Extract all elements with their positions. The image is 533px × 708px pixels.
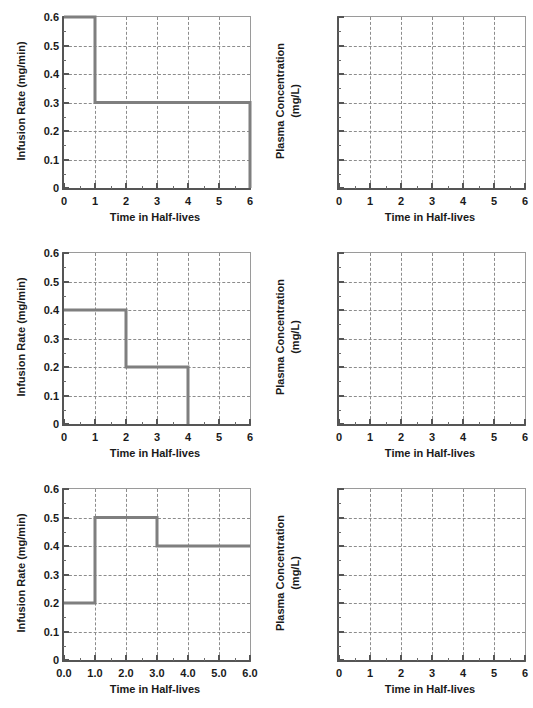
- panel-infusion-2: 012345600.10.20.30.40.50.6 Infusion Rate…: [0, 236, 266, 472]
- y-tick-major: [338, 545, 344, 547]
- y-tick-label: 0: [28, 655, 59, 666]
- y-tick-label: 0.4: [28, 541, 59, 552]
- x-tick-major: [369, 419, 371, 425]
- x-tick-label: 6: [522, 196, 528, 207]
- x-tick-label: 6: [247, 196, 253, 207]
- panel-infusion-1: 012345600.10.20.30.40.50.6 Infusion Rate…: [0, 0, 266, 236]
- y-tick-minor: [338, 324, 341, 325]
- step-line-path: [64, 17, 250, 188]
- x-tick-label: 3: [429, 196, 435, 207]
- y-tick-minor: [338, 646, 341, 647]
- plot-area-plasma-2: 0123456: [337, 252, 526, 426]
- y-axis-title-plasma-line2: (mg/L): [288, 8, 303, 194]
- y-axis-title-infusion-3: Infusion Rate (mg/min): [14, 480, 28, 666]
- gridline-vertical: [432, 489, 433, 660]
- x-tick-label: 1.0: [87, 668, 102, 679]
- x-tick-label: 5.0: [211, 668, 226, 679]
- x-tick-major: [431, 183, 433, 189]
- gridline-vertical: [370, 489, 371, 660]
- x-tick-label: 1: [367, 668, 373, 679]
- gridline-vertical: [401, 253, 402, 424]
- gridline-vertical: [432, 253, 433, 424]
- x-tick-label: 2: [398, 196, 404, 207]
- y-tick-label: 0: [28, 183, 59, 194]
- y-axis-title-plasma-3: Plasma Concentration (mg/L): [273, 480, 303, 666]
- x-tick-label: 6: [247, 432, 253, 443]
- gridline-horizontal: [339, 632, 525, 633]
- step-line-path: [64, 310, 188, 424]
- x-tick-label: 4: [460, 196, 466, 207]
- gridline-horizontal: [339, 367, 525, 368]
- x-tick-major: [524, 183, 526, 189]
- y-tick-label: 0.2: [28, 126, 59, 137]
- x-tick-minor: [355, 422, 356, 425]
- y-tick-minor: [338, 117, 341, 118]
- gridline-horizontal: [339, 160, 525, 161]
- panel-plasma-2: 0123456 Plasma Concentration (mg/L) Time…: [267, 236, 533, 472]
- x-tick-minor: [479, 186, 480, 189]
- y-tick-minor: [338, 589, 341, 590]
- x-axis-title-plasma-1: Time in Half-lives: [337, 211, 523, 223]
- x-tick-label: 1: [367, 432, 373, 443]
- x-tick-minor: [386, 186, 387, 189]
- x-tick-label: 3: [154, 196, 160, 207]
- y-tick-minor: [338, 353, 341, 354]
- y-tick-minor: [338, 617, 341, 618]
- step-line-series: [64, 253, 250, 424]
- gridline-horizontal: [339, 282, 525, 283]
- x-tick-minor: [510, 186, 511, 189]
- y-tick-label: 0.1: [28, 390, 59, 401]
- y-tick-major: [338, 130, 344, 132]
- gridline-vertical: [463, 489, 464, 660]
- y-tick-minor: [338, 296, 341, 297]
- y-tick-major: [338, 366, 344, 368]
- y-tick-minor: [338, 88, 341, 89]
- x-tick-minor: [479, 422, 480, 425]
- y-tick-major: [338, 309, 344, 311]
- x-tick-major: [524, 655, 526, 661]
- y-tick-label: 0.3: [28, 333, 59, 344]
- x-tick-label: 6: [522, 432, 528, 443]
- y-tick-label: 0.6: [28, 12, 59, 23]
- x-tick-label: 3: [429, 432, 435, 443]
- gridline-vertical: [494, 489, 495, 660]
- x-axis-title-infusion-3: Time in Half-lives: [62, 683, 248, 695]
- x-tick-label: 3: [429, 668, 435, 679]
- y-axis-title-plasma-line1: Plasma Concentration: [274, 279, 286, 395]
- y-tick-major: [338, 159, 344, 161]
- y-axis-title-plasma-2: Plasma Concentration (mg/L): [273, 244, 303, 430]
- gridline-vertical: [370, 253, 371, 424]
- x-axis-title-infusion-2: Time in Half-lives: [62, 447, 248, 459]
- y-tick-label: 0.5: [28, 276, 59, 287]
- y-tick-major: [338, 574, 344, 576]
- gridline-vertical: [494, 253, 495, 424]
- gridline-horizontal: [339, 575, 525, 576]
- y-axis-title-plasma-1: Plasma Concentration (mg/L): [273, 8, 303, 194]
- y-tick-major: [338, 73, 344, 75]
- plot-area-infusion-3: 0.01.02.03.04.05.06.000.10.20.30.40.50.6: [62, 488, 251, 662]
- gridline-horizontal: [339, 103, 525, 104]
- x-axis-title-plasma-3: Time in Half-lives: [337, 683, 523, 695]
- gridline-vertical: [494, 17, 495, 188]
- plot-area-infusion-1: 012345600.10.20.30.40.50.6: [62, 16, 251, 190]
- x-tick-label: 5: [216, 196, 222, 207]
- x-tick-minor: [448, 422, 449, 425]
- x-tick-label: 3.0: [149, 668, 164, 679]
- x-tick-label: 5: [216, 432, 222, 443]
- gridline-horizontal: [339, 131, 525, 132]
- x-tick-major: [400, 655, 402, 661]
- plot-area-infusion-2: 012345600.10.20.30.40.50.6: [62, 252, 251, 426]
- gridline-horizontal: [339, 396, 525, 397]
- gridline-vertical: [401, 17, 402, 188]
- y-tick-minor: [338, 60, 341, 61]
- y-axis-title-plasma-line1: Plasma Concentration: [274, 43, 286, 159]
- x-tick-label: 5: [491, 668, 497, 679]
- y-tick-label: 0.1: [28, 154, 59, 165]
- y-tick-minor: [338, 145, 341, 146]
- x-tick-major: [493, 183, 495, 189]
- x-tick-major: [493, 655, 495, 661]
- panel-infusion-3: 0.01.02.03.04.05.06.000.10.20.30.40.50.6…: [0, 472, 266, 708]
- x-tick-major: [400, 419, 402, 425]
- step-line-series: [64, 489, 250, 660]
- y-tick-minor: [338, 560, 341, 561]
